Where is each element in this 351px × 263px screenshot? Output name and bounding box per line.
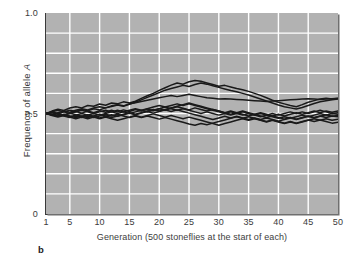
figure-panel-b: Frequency of allele A 1.0 0.5 0 15101520…: [0, 0, 351, 263]
panel-label: b: [38, 244, 44, 255]
x-tick-label-15: 15: [118, 217, 140, 227]
x-tick-label-50: 50: [327, 217, 349, 227]
y-tick-label-1: 1.0: [8, 8, 38, 18]
chart-svg: [46, 13, 338, 214]
data-series-group: [46, 81, 338, 126]
plot-area: [46, 13, 338, 214]
x-axis-title: Generation (500 stoneflies at the start …: [46, 232, 338, 242]
x-tick-label-40: 40: [267, 217, 289, 227]
x-tick-label-35: 35: [238, 217, 260, 227]
x-tick-label-10: 10: [89, 217, 111, 227]
x-tick-label-30: 30: [208, 217, 230, 227]
x-tick-label-20: 20: [148, 217, 170, 227]
x-tick-label-45: 45: [297, 217, 319, 227]
x-axis-line: [45, 214, 339, 215]
x-tick-label-25: 25: [178, 217, 200, 227]
y-tick-label-0_5: 0.5: [8, 109, 38, 119]
y-axis-title-allele: A: [21, 64, 32, 71]
x-tick-label-5: 5: [59, 217, 81, 227]
y-tick-label-0: 0: [8, 209, 38, 219]
x-tick-label-1: 1: [35, 217, 57, 227]
